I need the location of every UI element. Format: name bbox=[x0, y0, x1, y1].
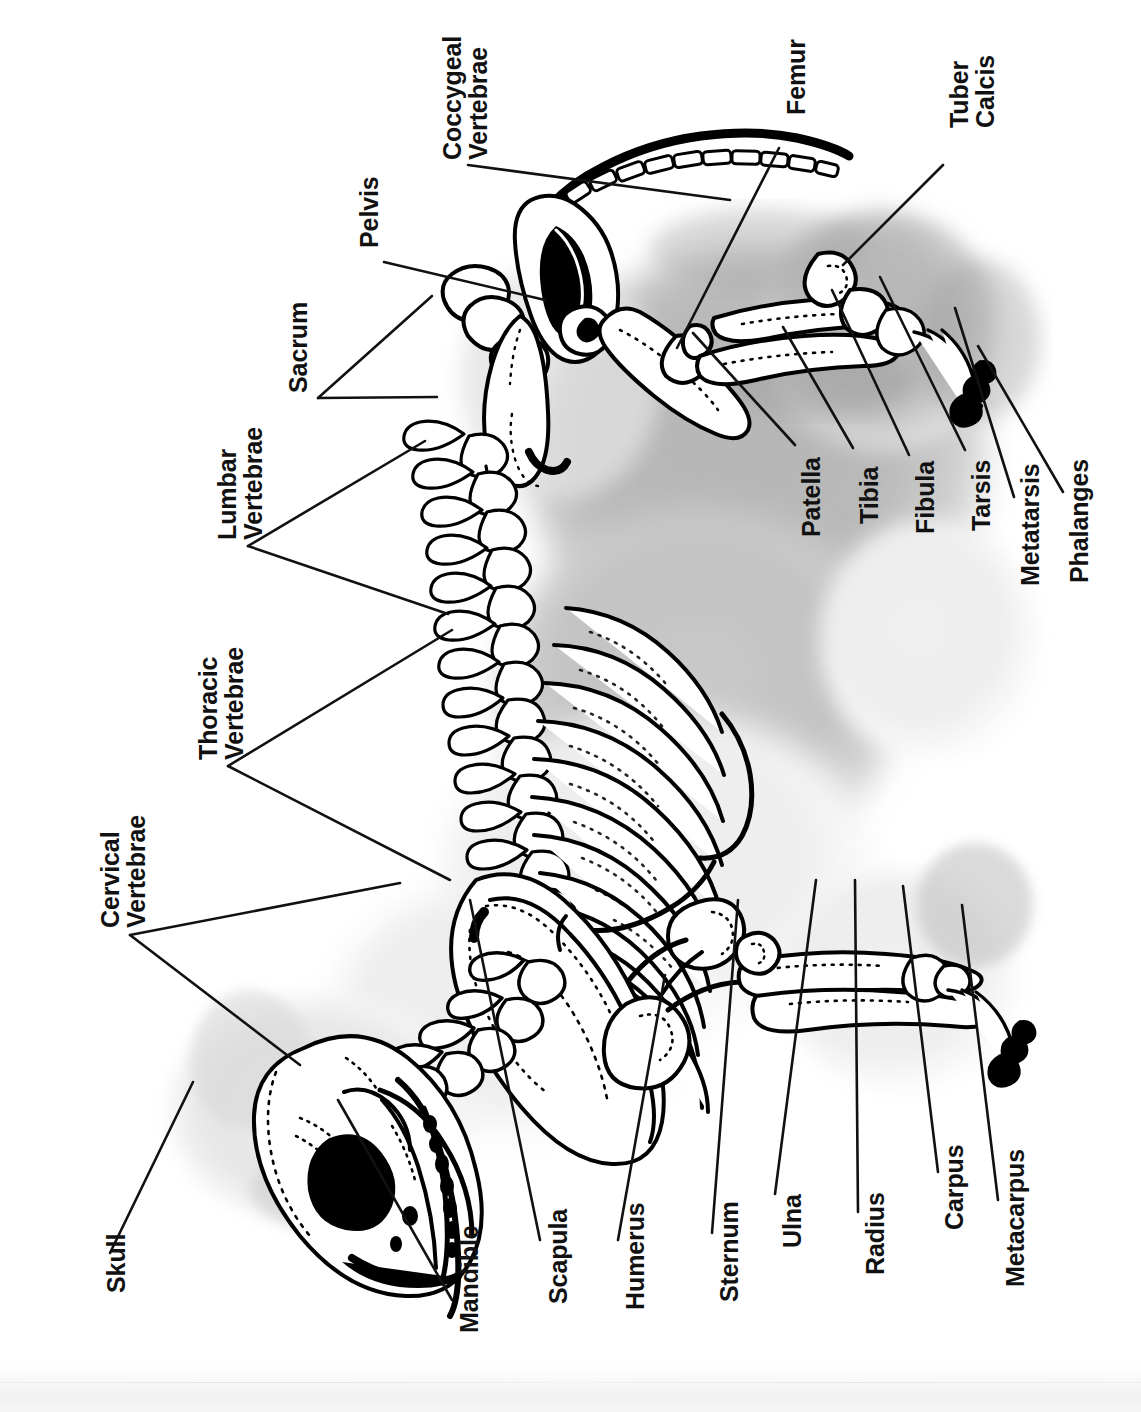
leader-radius bbox=[855, 880, 858, 1212]
label-sternum[interactable]: Sternum bbox=[716, 1201, 742, 1302]
leader-tibia bbox=[783, 327, 853, 448]
label-coccygeal-vertebrae[interactable]: Coccygeal Vertebrae bbox=[440, 36, 491, 160]
label-radius[interactable]: Radius bbox=[862, 1192, 888, 1275]
leader-sacrum-lower bbox=[318, 397, 437, 398]
leader-skull bbox=[110, 1082, 193, 1253]
label-femur[interactable]: Femur bbox=[783, 39, 809, 115]
leader-lines-layer bbox=[0, 0, 1141, 1412]
label-metacarpus[interactable]: Metacarpus bbox=[1002, 1149, 1028, 1287]
leader-cervical-lower bbox=[130, 935, 300, 1065]
label-patella[interactable]: Patella bbox=[798, 457, 824, 537]
leader-mandible bbox=[338, 1100, 452, 1300]
leader-lumbar-upper bbox=[248, 441, 425, 546]
label-lumbar-vertebrae[interactable]: Lumbar Vertebrae bbox=[215, 427, 266, 540]
label-tibia[interactable]: Tibia bbox=[856, 467, 882, 524]
leader-pelvis bbox=[384, 262, 545, 300]
label-tarsis[interactable]: Tarsis bbox=[968, 460, 994, 531]
leader-coccygeal-vertebrae bbox=[468, 165, 730, 200]
leader-sacrum-upper bbox=[318, 296, 432, 398]
leader-tarsis bbox=[880, 277, 965, 450]
label-pelvis[interactable]: Pelvis bbox=[356, 176, 382, 248]
label-carpus[interactable]: Carpus bbox=[941, 1144, 967, 1230]
label-cervical-vertebrae[interactable]: Cervical Vertebrae bbox=[98, 815, 149, 928]
label-tuber-calcis[interactable]: Tuber Calcis bbox=[947, 55, 998, 128]
leader-lumbar-lower bbox=[248, 546, 448, 614]
leader-patella bbox=[693, 333, 795, 445]
label-humerus[interactable]: Humerus bbox=[622, 1202, 648, 1310]
label-ulna[interactable]: Ulna bbox=[779, 1194, 805, 1248]
leader-cervical-upper bbox=[130, 883, 400, 935]
diagram-page: Coccygeal Vertebrae Pelvis Sacrum Lumbar… bbox=[0, 0, 1141, 1412]
leader-humerus bbox=[618, 975, 665, 1240]
label-skull[interactable]: Skull bbox=[103, 1234, 129, 1293]
label-metatarsis[interactable]: Metatarsis bbox=[1017, 463, 1043, 586]
label-mandible[interactable]: Mandible bbox=[456, 1225, 482, 1333]
leader-femur bbox=[677, 148, 779, 348]
label-phalanges[interactable]: Phalanges bbox=[1066, 459, 1092, 583]
label-fibula[interactable]: Fibula bbox=[912, 461, 938, 534]
leader-sternum bbox=[712, 900, 738, 1233]
leader-thoracic-upper bbox=[228, 630, 452, 766]
leader-thoracic-lower bbox=[228, 766, 450, 880]
leader-tuber-calcis bbox=[843, 165, 943, 265]
leader-ulna bbox=[775, 880, 816, 1194]
label-scapula[interactable]: Scapula bbox=[545, 1209, 571, 1304]
leader-carpus bbox=[903, 886, 938, 1172]
label-thoracic-vertebrae[interactable]: Thoracic Vertebrae bbox=[196, 647, 247, 760]
label-sacrum[interactable]: Sacrum bbox=[285, 302, 311, 393]
leader-scapula bbox=[470, 900, 540, 1240]
